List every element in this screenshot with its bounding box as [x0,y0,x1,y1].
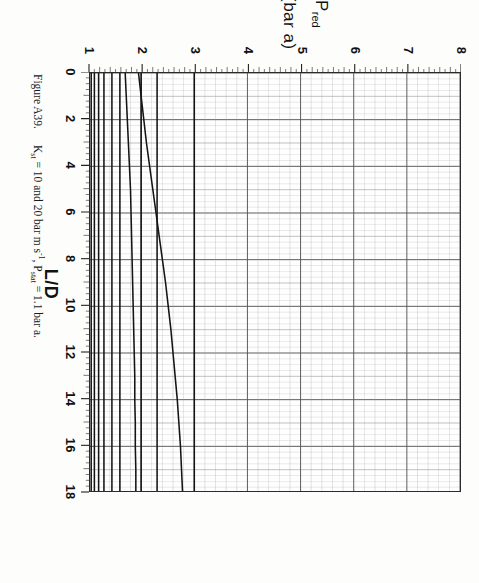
x-tick-label-10: 10 [63,298,78,313]
y-axis-title-symbol: P [312,0,331,12]
x-tick-label-4: 4 [63,162,78,170]
y-tick-label-2: 2 [135,28,150,54]
x-tick-label-8: 8 [63,255,78,263]
x-tick-label-0: 0 [63,68,78,76]
caption-kst-value: = 10 and 20 bar m s [32,159,44,253]
caption-kst-superscript: -1 [37,253,46,260]
y-axis-title-subscript: red [310,12,322,28]
y-tick-label-1: 1 [82,28,97,54]
plot-area [89,72,461,492]
data-curves-svg [89,73,460,492]
y-tick-label-8: 8 [454,28,469,54]
y-tick-label-6: 6 [347,28,362,54]
x-tick-label-14: 14 [63,391,78,406]
y-tick-label-7: 7 [400,28,415,54]
y-tick-label-3: 3 [188,28,203,54]
caption-pstat-subscript: stat [29,272,38,283]
data-layer [90,73,460,491]
x-tick-label-16: 16 [63,438,78,453]
x-tick-label-12: 12 [63,344,78,359]
x-tick-label-2: 2 [63,115,78,123]
x-tick-label-18: 18 [63,484,78,499]
x-tick-label-6: 6 [63,208,78,216]
figure-caption: Figure A39.Kst = 10 and 20 bar m s-1, Ps… [27,74,47,574]
scanned-page: 024681012141618 12345678 L/D Pred (bar a… [0,0,479,583]
figure-a39: 024681012141618 12345678 L/D Pred (bar a… [0,0,479,583]
y-axis-title-units: (bar a) [279,0,299,50]
rotated-figure-wrapper: 024681012141618 12345678 L/D Pred (bar a… [0,0,479,583]
figure-number: Figure A39. [32,74,44,129]
y-tick-label-4: 4 [241,28,256,54]
caption-comma-pstat: , P [32,260,44,272]
caption-pstat-value: = 1.1 bar a. [32,283,44,338]
y-axis-title-pred: Pred [310,0,331,28]
